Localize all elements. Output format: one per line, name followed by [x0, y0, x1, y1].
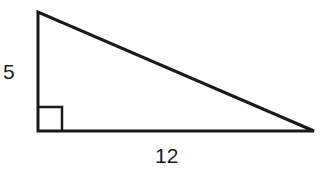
right-triangle [38, 12, 314, 131]
right-angle-marker [38, 107, 62, 131]
vertical-leg-label: 5 [3, 61, 15, 82]
horizontal-leg-label: 12 [155, 145, 178, 166]
